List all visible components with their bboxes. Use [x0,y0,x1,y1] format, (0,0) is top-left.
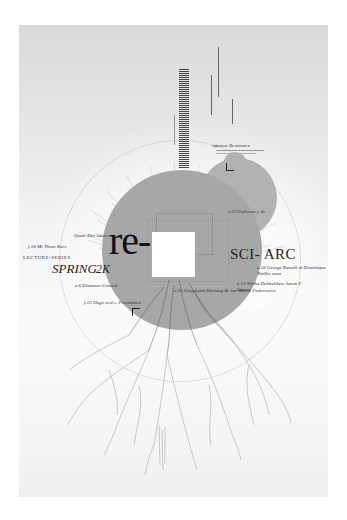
year-label: 2K [96,262,110,277]
speaker-label: e.25 Greg Lynn Hartung & Ann Marie Fedor… [174,288,276,293]
series-label: LECTURE-SERIES [23,255,71,260]
speaker-label: Quatr Dev Ideas et [74,233,112,238]
institution-title: SCI- ARC [230,246,296,263]
poster: reference: Re-current-a [19,25,328,497]
speaker-label: e.6 Ebenezer Conard [75,283,117,288]
speaker-label: e.18 George Ranalli et Dominique Weilbo … [257,265,328,277]
season-label: SPRING [52,261,97,277]
headline: re- [109,221,150,261]
speaker-label: e.13 Padovan y de [228,209,265,214]
speaker-label: f.14 Mr Thom Kerz [28,244,66,249]
speaker-label: f.23 Hugo m.d.s. Providence [84,300,141,305]
